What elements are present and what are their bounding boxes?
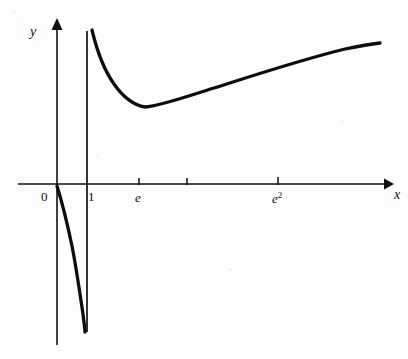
y-axis-label: y xyxy=(30,25,36,39)
x-axis-arrow-icon xyxy=(384,179,394,190)
tick-label-one: 1 xyxy=(88,190,95,203)
curve-left-branch xyxy=(57,186,85,332)
tick-label-e: e xyxy=(135,191,141,204)
tick-label-origin: 0 xyxy=(41,190,48,203)
x-axis-label: x xyxy=(394,188,400,202)
curve-right-branch xyxy=(92,30,380,107)
figure-container: y x 0 1 e e2 xyxy=(0,0,408,359)
e-squared-exponent: 2 xyxy=(278,190,283,200)
tick-label-e-squared: e2 xyxy=(272,191,282,205)
function-plot xyxy=(0,0,408,359)
y-axis-arrow-icon xyxy=(52,18,63,30)
